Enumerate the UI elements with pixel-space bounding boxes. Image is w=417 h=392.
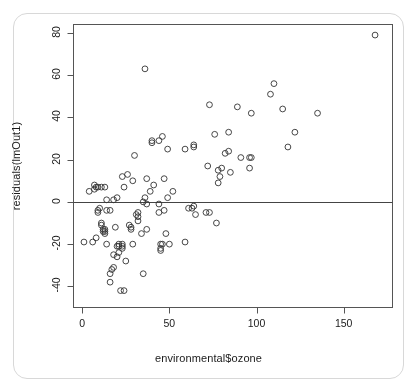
x-axis-label: environmental$ozone <box>0 352 417 364</box>
y-tick-label: 40 <box>50 99 62 133</box>
y-axis-label: residuals(lmOut1) <box>10 81 22 251</box>
x-tick-label: 0 <box>62 317 102 329</box>
x-tick-label: 50 <box>149 317 189 329</box>
y-tick-label: -20 <box>50 226 62 260</box>
y-tick-label: 0 <box>50 184 62 218</box>
y-tick-label: 20 <box>50 142 62 176</box>
scatter-plot-canvas <box>0 0 417 392</box>
y-axis-label-container: residuals(lmOut1) <box>0 0 30 330</box>
y-tick-label: 60 <box>50 57 62 91</box>
y-tick-label: 80 <box>50 15 62 49</box>
y-tick-label: -40 <box>50 268 62 302</box>
x-tick-label: 150 <box>324 317 364 329</box>
x-tick-label: 100 <box>237 317 277 329</box>
